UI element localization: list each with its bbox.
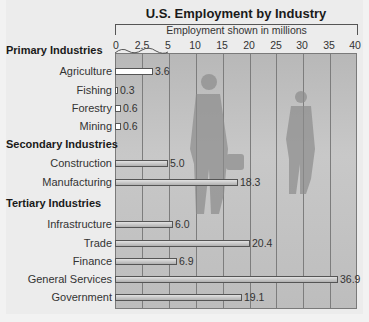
value-label: 0.6 [123, 120, 138, 132]
x-tick: 15 [216, 39, 228, 51]
bar-trade [115, 240, 250, 247]
category-label: Manufacturing [42, 176, 112, 188]
value-label: 0.3 [120, 84, 135, 96]
category-label: Finance [73, 255, 112, 267]
value-label: 18.3 [240, 176, 260, 188]
x-tick: 20 [243, 39, 255, 51]
category-label: Mining [80, 120, 112, 132]
value-label: 19.1 [244, 291, 264, 303]
x-axis-label: Employment shown in millions [115, 24, 358, 36]
category-label: Trade [84, 237, 112, 249]
category-label: Infrastructure [47, 218, 112, 230]
section-tertiary: Tertiary Industries [6, 197, 101, 209]
section-primary: Primary Industries [6, 44, 103, 56]
value-label: 36.9 [340, 273, 360, 285]
category-label: Agriculture [59, 65, 112, 77]
category-label: Fishing [77, 84, 112, 96]
value-label: 5.0 [170, 157, 185, 169]
axis-break-icon [115, 47, 175, 55]
value-label: 20.4 [252, 237, 272, 249]
section-secondary: Secondary Industries [6, 138, 118, 150]
bar-manufacturing [115, 179, 238, 186]
value-label: 6.9 [179, 255, 194, 267]
x-tick: 35 [323, 39, 335, 51]
bar-general-services [115, 276, 338, 283]
bar-government [115, 294, 242, 301]
bar-fishing [115, 87, 118, 94]
bar-construction [115, 160, 168, 167]
x-tick: 40 [349, 39, 361, 51]
x-tick: 10 [189, 39, 201, 51]
x-tick: 30 [296, 39, 308, 51]
chart-title: U.S. Employment by Industry [112, 6, 360, 21]
category-label: Construction [50, 157, 112, 169]
category-label: General Services [28, 273, 112, 285]
value-label: 6.0 [175, 218, 190, 230]
value-label: 0.6 [123, 102, 138, 114]
bar-infrastructure [115, 221, 173, 228]
bar-agriculture [115, 68, 153, 75]
category-label: Forestry [72, 102, 112, 114]
bar-forestry [115, 105, 121, 112]
value-label: 3.6 [155, 65, 170, 77]
category-label: Government [51, 291, 112, 303]
bar-mining [115, 123, 121, 130]
x-tick: 25 [270, 39, 282, 51]
bar-finance [115, 258, 177, 265]
